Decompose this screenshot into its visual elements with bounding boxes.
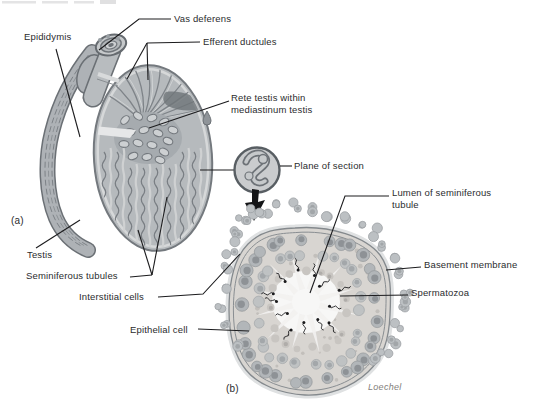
- label-lumen-line2: tubule: [392, 199, 419, 210]
- label-plane-of-section: Plane of section: [294, 160, 364, 172]
- label-interstitial-cells: Interstitial cells: [79, 291, 144, 303]
- appendix-testis-drop: [203, 111, 211, 125]
- panel-label-a: (a): [11, 215, 24, 227]
- label-efferent-ductules: Efferent ductules: [203, 36, 277, 48]
- leader-efferent-ductules: [147, 42, 200, 43]
- label-rete-testis-line2: mediastinum testis: [231, 104, 312, 115]
- label-epididymis: Epididymis: [24, 31, 71, 43]
- leader-basement-membrane: [386, 267, 421, 270]
- figure-testis-anatomy: Vas deferens Epididymis Efferent ductule…: [0, 0, 543, 419]
- cropped-text-fragment: [2, 0, 116, 4]
- label-lumen-line1: Lumen of seminiferous: [392, 187, 491, 198]
- label-seminiferous-tubules: Seminiferous tubules: [26, 270, 118, 282]
- label-spermatozoa: Spermatozoa: [411, 287, 469, 299]
- panel-label-b: (b): [226, 383, 239, 395]
- label-testis: Testis: [27, 249, 52, 261]
- label-rete-testis-line1: Rete testis within: [231, 92, 306, 103]
- leader-seminiferous-tubules: [130, 275, 152, 277]
- label-epithelial-cell: Epithelial cell: [130, 324, 188, 336]
- label-lumen: Lumen of seminiferous tubule: [392, 187, 491, 210]
- cross-section-illustration: [215, 198, 413, 395]
- label-vas-deferens: Vas deferens: [174, 13, 231, 25]
- label-rete-testis: Rete testis within mediastinum testis: [231, 92, 312, 115]
- artist-signature: Loechel: [368, 382, 402, 394]
- label-basement-membrane: Basement membrane: [424, 259, 517, 271]
